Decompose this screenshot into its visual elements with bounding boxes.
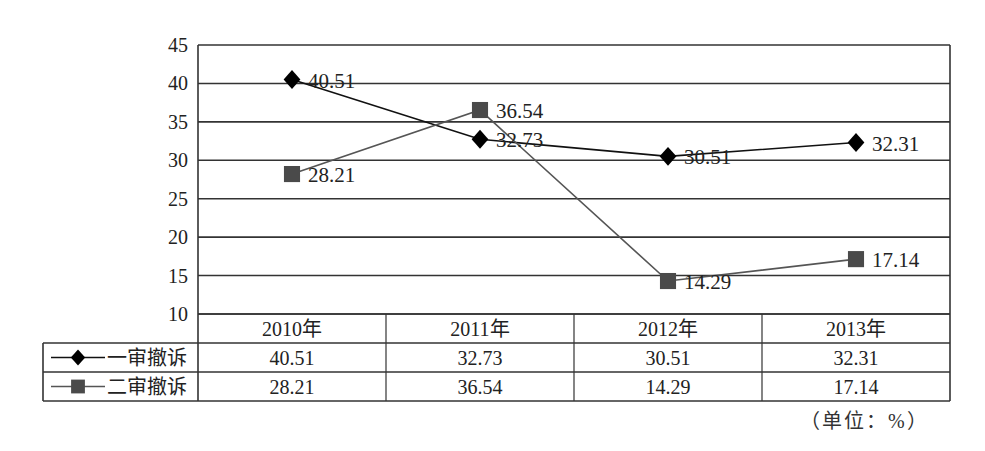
line-chart: 1015202530354045 2010年2011年2012年2013年一审撤…	[0, 0, 985, 451]
table-cell: 17.14	[834, 376, 879, 398]
data-label: 17.14	[872, 248, 920, 272]
square-marker-icon	[472, 102, 488, 118]
square-marker-icon	[848, 251, 864, 267]
chart-canvas: 1015202530354045 2010年2011年2012年2013年一审撤…	[0, 0, 985, 451]
y-tick-label: 15	[168, 265, 188, 287]
table-cell: 32.73	[458, 347, 503, 369]
y-tick-label: 30	[168, 149, 188, 171]
series-line	[292, 110, 856, 281]
series-lines: 40.5132.7330.5132.3128.2136.5414.2917.14	[284, 69, 920, 295]
y-tick-label: 10	[168, 303, 188, 325]
data-label: 36.54	[496, 99, 544, 123]
table-cell: 36.54	[458, 376, 503, 398]
data-label: 32.73	[496, 128, 543, 152]
square-marker-icon	[284, 166, 300, 182]
category-label: 2010年	[262, 318, 322, 340]
y-tick-label: 35	[168, 111, 188, 133]
data-label: 40.51	[308, 69, 355, 93]
y-axis: 1015202530354045	[168, 34, 188, 325]
category-label: 2011年	[450, 318, 509, 340]
table-cell: 40.51	[270, 347, 315, 369]
y-tick-label: 20	[168, 226, 188, 248]
data-label: 28.21	[308, 163, 355, 187]
legend-marker-icon	[71, 380, 85, 394]
data-label: 14.29	[684, 270, 731, 294]
y-tick-label: 45	[168, 34, 188, 56]
table-cell: 28.21	[270, 376, 315, 398]
table-cell: 14.29	[646, 376, 691, 398]
table-cell: 30.51	[646, 347, 691, 369]
category-label: 2013年	[826, 318, 886, 340]
diamond-marker-icon	[284, 70, 301, 89]
legend-label: 一审撤诉	[107, 347, 187, 369]
legend-marker-icon	[71, 349, 85, 365]
data-label: 32.31	[872, 132, 919, 156]
unit-note: （单位：%）	[800, 405, 929, 434]
diamond-marker-icon	[848, 133, 865, 152]
legend-label: 二审撤诉	[107, 376, 187, 398]
y-tick-label: 40	[168, 72, 188, 94]
table-cell: 32.31	[834, 347, 879, 369]
data-table: 2010年2011年2012年2013年一审撤诉40.5132.7330.513…	[43, 314, 950, 401]
diamond-marker-icon	[660, 147, 677, 166]
y-tick-label: 25	[168, 188, 188, 210]
category-label: 2012年	[638, 318, 698, 340]
diamond-marker-icon	[472, 130, 489, 149]
data-label: 30.51	[684, 145, 731, 169]
square-marker-icon	[660, 273, 676, 289]
